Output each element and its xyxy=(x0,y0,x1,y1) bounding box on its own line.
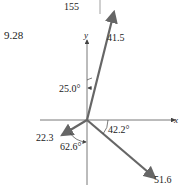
x-axis-label: x xyxy=(174,115,178,125)
page-number: 155 xyxy=(64,2,79,12)
angle-62-label: 62.6° xyxy=(60,142,82,152)
vector-41-5-arrow xyxy=(87,12,114,120)
angle-25-label: 25.0° xyxy=(59,84,81,94)
magnitude-51-6: 51.6 xyxy=(154,175,172,185)
angle-arc-25 xyxy=(87,78,92,80)
y-axis-label: y xyxy=(84,30,88,40)
magnitude-22-3: 22.3 xyxy=(36,133,54,143)
magnitude-41-5: 41.5 xyxy=(107,33,125,43)
vector-diagram xyxy=(0,0,179,190)
vector-22-3-arrow xyxy=(62,120,87,135)
angle-42-label: 42.2° xyxy=(108,125,130,135)
figure-label: 9.28 xyxy=(4,30,23,40)
